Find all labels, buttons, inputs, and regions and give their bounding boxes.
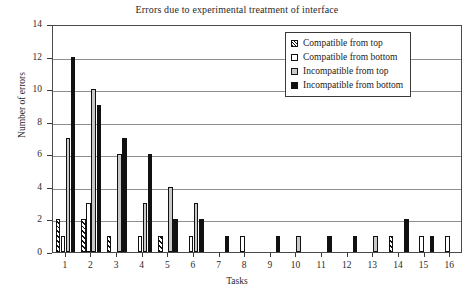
y-axis-tick-label: 6 [0,149,42,159]
bar [168,187,173,252]
x-axis-tick [295,253,296,257]
chart-title: Errors due to experimental treatment of … [0,4,474,15]
x-axis-tick-label: 3 [105,260,127,270]
bar [296,236,301,252]
legend-swatch-compatible-from-bottom-icon [291,54,298,61]
x-axis-tick [398,253,399,257]
legend-item: Incompatible from bottom [291,78,403,92]
bar [430,236,435,252]
x-axis-tick-label: 13 [361,260,383,270]
legend-swatch-incompatible-from-top-icon [291,68,298,75]
y-axis-tick-label: 2 [0,214,42,224]
bar [117,154,122,252]
x-axis-tick [244,253,245,257]
bar [97,105,102,252]
x-axis-tick-label: 1 [54,260,76,270]
bar [240,236,245,252]
bar [189,236,194,252]
x-axis-tick [65,253,66,257]
x-axis-tick [116,253,117,257]
bar [173,219,178,252]
x-axis-tick [90,253,91,257]
legend-item: Incompatible from top [291,64,403,78]
x-axis-tick [167,253,168,257]
x-axis-tick [372,253,373,257]
bar [158,236,163,252]
bar [419,236,424,252]
x-axis-tick [193,253,194,257]
bar [138,236,143,252]
bar [86,203,91,252]
x-axis-title: Tasks [0,276,474,286]
y-axis-tick-label: 12 [0,52,42,62]
x-axis-tick [347,253,348,257]
legend-swatch-compatible-from-top-icon [291,40,298,47]
x-axis-tick-label: 9 [259,260,281,270]
bar [327,236,332,252]
chart-container: Errors due to experimental treatment of … [0,0,474,303]
x-axis-tick [424,253,425,257]
bar [61,236,66,252]
y-axis-tick-label: 10 [0,84,42,94]
legend-label: Incompatible from top [303,66,388,76]
x-axis-tick-label: 14 [387,260,409,270]
bar [148,154,153,252]
bar [353,236,358,252]
x-axis-tick [142,253,143,257]
bar [194,203,199,252]
bar [276,236,281,252]
x-axis-tick-label: 15 [413,260,435,270]
x-axis-tick-label: 12 [336,260,358,270]
bar [91,89,96,252]
x-axis-tick-label: 11 [310,260,332,270]
y-axis-tick-label: 0 [0,247,42,257]
x-axis-tick-label: 2 [79,260,101,270]
legend-item: Compatible from bottom [291,50,403,64]
bar [143,203,148,252]
bar [389,236,394,252]
y-axis-tick-label: 14 [0,19,42,29]
chart-legend: Compatible from top Compatible from bott… [285,32,411,97]
y-axis-tick-label: 4 [0,182,42,192]
x-axis-tick-label: 4 [131,260,153,270]
x-axis-tick [449,253,450,257]
bar [107,236,112,252]
y-axis-tick [47,253,52,254]
x-axis-tick-label: 7 [208,260,230,270]
x-axis-tick-label: 16 [438,260,460,270]
x-axis-tick [219,253,220,257]
bar [445,236,450,252]
bar [373,236,378,252]
y-axis-tick-label: 8 [0,117,42,127]
bar [66,138,71,252]
x-axis-tick-label: 10 [284,260,306,270]
x-axis-tick-label: 6 [182,260,204,270]
bar [71,57,76,252]
legend-item: Compatible from top [291,36,403,50]
bar [122,138,127,252]
legend-label: Compatible from bottom [303,52,397,62]
legend-label: Compatible from top [303,38,383,48]
x-axis-tick-label: 8 [233,260,255,270]
x-axis-tick [270,253,271,257]
legend-swatch-incompatible-from-bottom-icon [291,82,298,89]
x-axis-tick [321,253,322,257]
bar [404,219,409,252]
bar [199,219,204,252]
bar [81,219,86,252]
legend-label: Incompatible from bottom [303,80,403,90]
x-axis-tick-label: 5 [156,260,178,270]
bar [225,236,230,252]
bar [56,219,61,252]
